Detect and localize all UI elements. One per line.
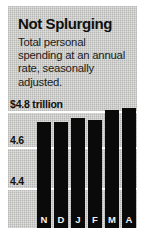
bar-label-n: N [37,215,51,225]
bar-label-f: F [88,215,102,225]
chart-panel: Not Splurging Total personal spending at… [8,6,137,228]
chart-subtitle: Total personal spending at an annual rat… [18,36,132,89]
bar-f: F [88,120,102,228]
chart-title: Not Splurging [18,15,112,32]
bar-label-a: A [122,215,136,225]
chart-figure: Not Splurging Total personal spending at… [0,0,148,243]
bar-j: J [71,118,85,228]
plot-area: $4.8 trillion 4.6 4.4 N D J F M A [8,98,137,228]
axis-label-top: $4.8 trillion [10,98,63,110]
bar-d: D [54,122,68,228]
bar-n: N [37,122,51,228]
bar-label-m: M [105,215,119,225]
bar-a: A [122,108,136,228]
axis-label-low: 4.4 [10,175,24,187]
bar-label-d: D [54,215,68,225]
bar-m: M [105,110,119,228]
bar-label-j: J [71,215,85,225]
axis-label-mid: 4.6 [10,134,24,146]
